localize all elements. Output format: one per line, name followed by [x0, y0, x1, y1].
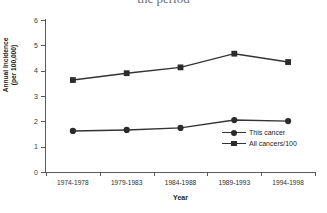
data-point-square	[124, 70, 130, 76]
x-tick	[261, 172, 262, 176]
y-tick	[41, 45, 46, 46]
y-tick-label: 4	[24, 67, 38, 74]
y-tick-label: 5	[24, 42, 38, 49]
x-axis-line	[45, 172, 315, 173]
x-tick-label: 1994-1998	[258, 179, 318, 187]
y-tick-label: 1	[24, 143, 38, 150]
data-point-square	[285, 59, 291, 65]
y-tick	[41, 20, 46, 21]
page-title: the period	[0, 0, 327, 7]
series-line	[73, 54, 288, 80]
data-point-circle	[231, 117, 237, 123]
x-tick	[100, 172, 101, 176]
data-point-circle	[285, 118, 291, 124]
chart-screenshot: the period 0123456 1974-19781979-1983198…	[0, 0, 327, 213]
y-axis-title: Annual Incidence (per 100,000)	[2, 15, 18, 115]
legend-item-this-cancer[interactable]: This cancer	[222, 127, 314, 138]
x-tick-label: 1979-1983	[97, 179, 157, 187]
x-axis-title: Year	[46, 194, 315, 201]
legend-label: This cancer	[246, 128, 285, 137]
y-tick	[41, 96, 46, 97]
y-tick	[41, 147, 46, 148]
chart-title-clipped: the period	[0, 0, 327, 7]
y-tick-label: 2	[24, 118, 38, 125]
legend-item-all-cancers[interactable]: All cancers/100	[222, 138, 314, 149]
circle-marker-icon	[222, 128, 246, 137]
y-tick-label: 0	[24, 169, 38, 176]
y-tick-label: 6	[24, 17, 38, 24]
data-point-square	[231, 51, 237, 57]
x-tick	[207, 172, 208, 176]
x-tick	[46, 172, 47, 176]
x-tick-label: 1989-1993	[204, 179, 264, 187]
y-tick	[41, 121, 46, 122]
legend: This cancer All cancers/100	[222, 127, 314, 149]
x-tick-label: 1984-1988	[151, 179, 211, 187]
data-point-square	[70, 77, 76, 83]
y-tick-label: 3	[24, 93, 38, 100]
legend-label: All cancers/100	[246, 139, 297, 148]
x-tick	[154, 172, 155, 176]
data-point-circle	[70, 128, 76, 134]
data-point-square	[178, 64, 184, 70]
square-marker-icon	[222, 139, 246, 148]
x-tick	[315, 172, 316, 176]
data-point-circle	[124, 127, 130, 133]
data-point-circle	[177, 125, 183, 131]
x-tick-label: 1974-1978	[43, 179, 103, 187]
y-tick	[41, 71, 46, 72]
